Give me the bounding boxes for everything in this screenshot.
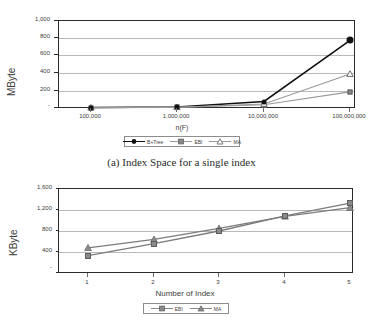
chart-index-space-multiple: KByte 1,600 1,200 800 400 - xyxy=(0,178,363,328)
chart1-ytick-2: 400 xyxy=(14,68,50,75)
chart2-xtick-0: 1 xyxy=(67,279,107,286)
chart1-legend-label-ebi: EBI xyxy=(194,139,202,145)
chart1-legend-item-ma[interactable]: MA xyxy=(209,139,241,145)
chart2-point-ebi-3 xyxy=(282,213,288,219)
chart2-xtick-3: 4 xyxy=(264,279,304,286)
chart2-xtickmark-0 xyxy=(87,273,88,277)
chart2-xtickmark-2 xyxy=(218,273,219,277)
chart1-xtick-2: 10,000,000 xyxy=(233,113,293,120)
chart2-ytick-1: 400 xyxy=(16,247,52,254)
chart1-ytick-0: - xyxy=(14,102,50,109)
chart1-ytick-3: 600 xyxy=(14,50,50,57)
chart2-legend-item-ma[interactable]: MA xyxy=(190,306,222,312)
chart2-xtickmark-1 xyxy=(153,273,154,277)
chart-index-space-single: MByte 1,000 800 600 400 200 - xyxy=(0,0,363,152)
chart1-legend-swatch-ebi xyxy=(170,141,192,142)
chart2-legend-swatch-ma xyxy=(190,308,212,309)
chart1-xtick-3: 100,000,000 xyxy=(319,113,370,120)
chart1-ma-markers xyxy=(59,21,356,109)
chart1-xtick-0: 100,000 xyxy=(60,113,120,120)
chart2-point-ebi-4 xyxy=(347,200,353,206)
chart1-legend-swatch-ma xyxy=(209,141,231,142)
chart1-legend-label-btree: B+Tree xyxy=(147,139,163,145)
chart2-xtick-4: 5 xyxy=(329,279,369,286)
chart2-ytick-3: 1,200 xyxy=(16,205,52,212)
chart2-point-ebi-1 xyxy=(151,241,157,247)
chart1-legend-label-ma: MA xyxy=(233,139,241,145)
chart2-legend-label-ma: MA xyxy=(214,306,222,312)
chart2-point-ebi-2 xyxy=(216,228,222,234)
chart2-legend-swatch-ebi xyxy=(151,308,173,309)
chart1-xtickmark-3 xyxy=(349,108,350,112)
chart1-legend-swatch-btree xyxy=(123,141,145,142)
chart2-xtick-2: 3 xyxy=(198,279,238,286)
chart2-xtickmark-3 xyxy=(284,273,285,277)
chart2-xtick-1: 2 xyxy=(133,279,173,286)
chart1-xtickmark-0 xyxy=(90,108,91,112)
chart1-point-btree-3 xyxy=(347,37,354,44)
chart1-plot-area xyxy=(58,20,355,108)
chart2-legend-label-ebi: EBI xyxy=(175,306,183,312)
chart2-ytick-4: 1,600 xyxy=(16,184,52,191)
chart1-x-axis-label: n(F) xyxy=(152,124,212,131)
chart1-ytick-5: 1,000 xyxy=(14,16,50,23)
chart1-legend-item-ebi[interactable]: EBI xyxy=(170,139,202,145)
chart2-ma-markers xyxy=(59,189,354,274)
chart2-x-axis-label: Number of Index xyxy=(140,289,230,298)
chart2-legend-item-ebi[interactable]: EBI xyxy=(151,306,183,312)
chart2-point-ebi-0 xyxy=(85,253,91,259)
chart2-plot-area xyxy=(58,188,353,273)
chart2-ytick-0: - xyxy=(16,264,52,271)
chart1-legend: B+Tree EBI MA xyxy=(124,136,240,147)
chart1-ytick-1: 200 xyxy=(14,86,50,93)
chart1-legend-item-btree[interactable]: B+Tree xyxy=(123,139,163,145)
chart1-ytick-4: 800 xyxy=(14,33,50,40)
chart1-xtickmark-2 xyxy=(263,108,264,112)
chart1-point-btree-2 xyxy=(262,99,267,104)
chart2-ytick-2: 800 xyxy=(16,226,52,233)
chart2-legend: EBI MA xyxy=(143,303,229,314)
chart1-xtickmark-1 xyxy=(176,108,177,112)
chart1-caption: (a) Index Space for a single index xyxy=(0,156,363,168)
chart1-xtick-1: 1,000,000 xyxy=(146,113,206,120)
